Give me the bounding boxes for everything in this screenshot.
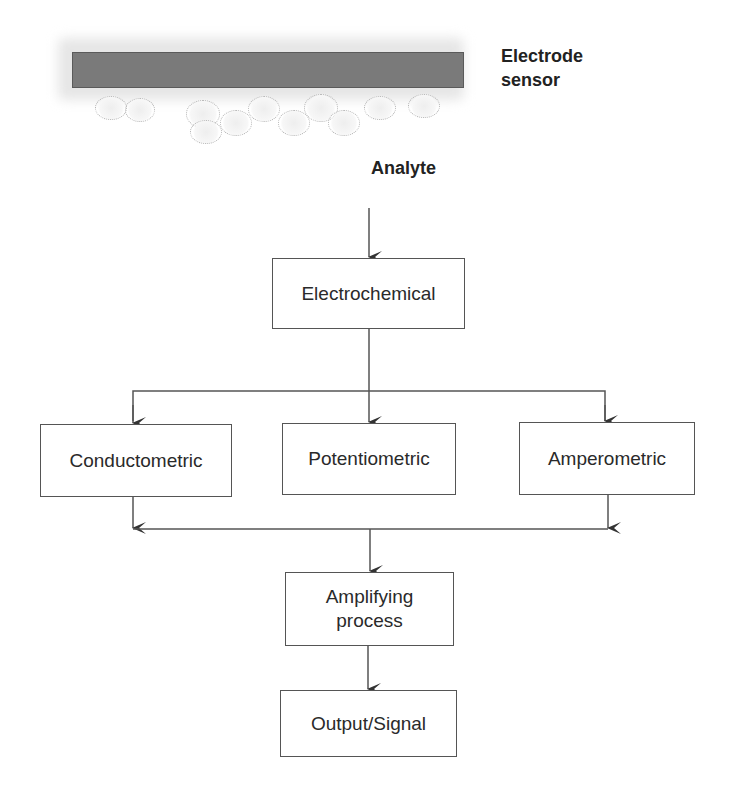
node-amplifying-label-line1: Amplifying xyxy=(326,585,414,609)
node-amplifying-process: Amplifying process xyxy=(285,572,454,646)
node-potentiometric-label: Potentiometric xyxy=(308,447,429,471)
node-electrochemical: Electrochemical xyxy=(272,258,465,329)
node-conductometric: Conductometric xyxy=(40,424,232,497)
node-amperometric: Amperometric xyxy=(519,422,695,495)
node-conductometric-label: Conductometric xyxy=(69,449,202,473)
node-potentiometric: Potentiometric xyxy=(282,423,456,495)
node-output-label: Output/Signal xyxy=(311,712,426,736)
node-electrochemical-label: Electrochemical xyxy=(301,282,435,306)
node-amplifying-label-line2: process xyxy=(336,609,403,633)
node-output-signal: Output/Signal xyxy=(280,690,457,757)
flow-connectors xyxy=(0,0,730,792)
node-amperometric-label: Amperometric xyxy=(548,447,666,471)
